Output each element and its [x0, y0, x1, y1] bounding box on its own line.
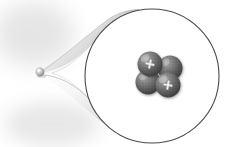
particle-proton-lower-right	[156, 73, 181, 98]
atom-sphere-body	[36, 68, 44, 76]
nucleus-magnification-figure: Atomic nucleus magnification	[0, 0, 228, 147]
atom-sphere-highlight	[37, 69, 40, 72]
figure-canvas	[0, 0, 228, 147]
particle-proton-upper-left	[138, 52, 163, 77]
